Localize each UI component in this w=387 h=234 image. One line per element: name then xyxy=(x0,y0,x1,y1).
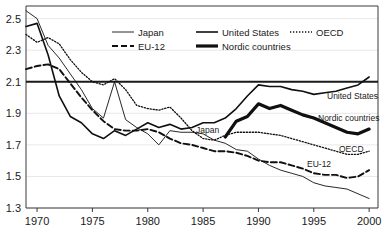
x-tick-label: 1975 xyxy=(80,215,104,227)
chart-canvas: 1970197519801985199019952000 1.31.51.71.… xyxy=(0,0,387,234)
y-tick-label: 1.5 xyxy=(6,170,21,182)
inline-label-united-states: United States xyxy=(327,91,378,101)
x-tick-label: 2000 xyxy=(357,215,381,227)
y-tick-label: 1.7 xyxy=(6,139,21,151)
legend-label-united-states: United States xyxy=(222,27,279,38)
fertility-rate-line-chart: 1970197519801985199019952000 1.31.51.71.… xyxy=(0,0,387,234)
inline-label-nordic-countries: Nordic countries xyxy=(318,113,379,123)
legend-label-oecd: OECD xyxy=(316,27,344,38)
x-tick-label: 1985 xyxy=(191,215,215,227)
y-tick-label: 2.5 xyxy=(6,13,21,25)
y-tick-label: 1.9 xyxy=(6,107,21,119)
x-tick-label: 1980 xyxy=(136,215,160,227)
inline-label-eu-12: EU-12 xyxy=(307,159,331,169)
y-tick-label: 1.3 xyxy=(6,202,21,214)
inline-label-japan: Japan xyxy=(196,125,219,135)
x-tick-label: 1970 xyxy=(25,215,49,227)
legend-label-japan: Japan xyxy=(138,27,164,38)
x-tick-label: 1990 xyxy=(246,215,270,227)
y-tick-label: 2.3 xyxy=(6,44,21,56)
y-tick-label: 2.1 xyxy=(6,76,21,88)
x-tick-label: 1995 xyxy=(302,215,326,227)
inline-label-oecd: OECD xyxy=(339,144,364,154)
legend-label-nordic-countries: Nordic countries xyxy=(222,41,291,52)
legend-label-eu-12: EU-12 xyxy=(138,41,165,52)
